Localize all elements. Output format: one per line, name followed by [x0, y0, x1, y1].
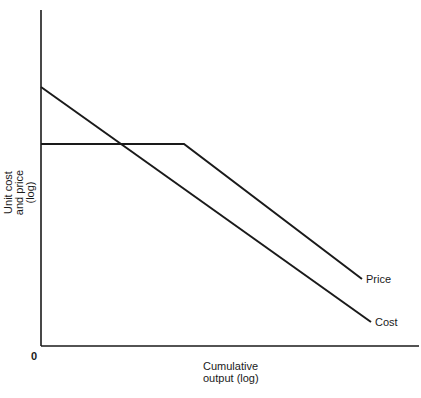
x-axis-label-line-2: output (log) — [203, 372, 259, 384]
chart-canvas — [0, 0, 421, 398]
y-axis-label-line-3: (log) — [25, 153, 36, 233]
cost-line — [41, 87, 371, 322]
cost-series-label: Cost — [375, 316, 398, 328]
price-line — [41, 144, 362, 279]
origin-label: 0 — [31, 350, 37, 362]
price-series-label: Price — [366, 273, 391, 285]
x-axis-label: Cumulative output (log) — [203, 360, 259, 384]
x-axis-label-line-1: Cumulative — [203, 360, 259, 372]
y-axis-label: Unit cost and price (log) — [3, 153, 36, 233]
